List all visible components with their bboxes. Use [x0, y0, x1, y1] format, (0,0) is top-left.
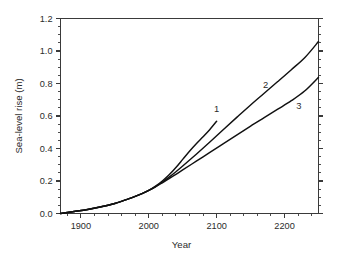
- y-axis-title: Sea-level rise (m): [13, 78, 24, 153]
- data-curves: [61, 42, 319, 214]
- y-tick-label: 0.6: [40, 111, 53, 121]
- y-tick-label: 1.2: [40, 14, 53, 24]
- x-tick-label: 1900: [71, 221, 91, 231]
- x-tick-label: 2000: [139, 221, 159, 231]
- curve-series-1: [61, 121, 217, 213]
- curve-series-3: [61, 77, 319, 213]
- chart-text-labels: 0.00.20.40.60.81.01.21900200021002200Yea…: [13, 14, 301, 250]
- chart-canvas: 0.00.20.40.60.81.01.21900200021002200Yea…: [0, 0, 341, 260]
- series-label-1: 1: [214, 103, 219, 114]
- y-tick-label: 0.8: [40, 79, 53, 89]
- y-tick-label: 0.0: [40, 209, 53, 219]
- y-tick-label: 0.4: [40, 144, 53, 154]
- series-label-3: 3: [296, 100, 301, 111]
- series-label-2: 2: [263, 79, 268, 90]
- sea-level-rise-chart: 0.00.20.40.60.81.01.21900200021002200Yea…: [0, 0, 341, 260]
- y-tick-label: 0.2: [40, 176, 53, 186]
- x-axis-title: Year: [172, 239, 192, 250]
- curve-series-2: [61, 42, 319, 214]
- tick-marks: [56, 19, 323, 219]
- plot-frame: [61, 19, 319, 214]
- axes: [61, 19, 319, 214]
- x-tick-label: 2100: [206, 221, 226, 231]
- y-tick-label: 1.0: [40, 46, 53, 56]
- x-tick-label: 2200: [274, 221, 294, 231]
